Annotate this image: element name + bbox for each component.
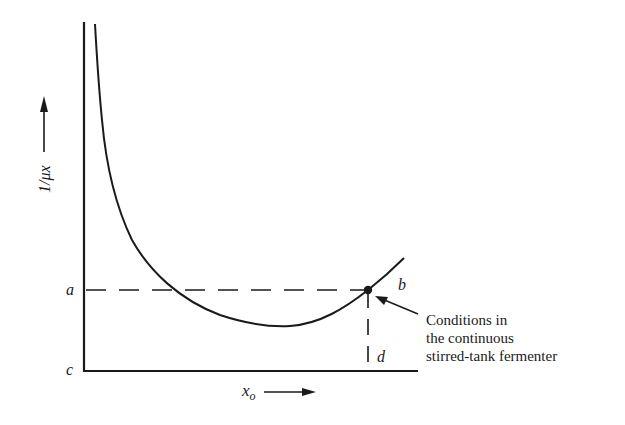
annotation-line-3: stirred-tank fermenter (426, 347, 557, 365)
annotation-line-2: the continuous (426, 329, 557, 347)
operating-point-marker (364, 286, 372, 294)
y-label-arrow-up-icon (40, 96, 48, 112)
label-a: a (66, 281, 74, 298)
annotation-arrowhead-icon (375, 296, 388, 305)
label-c: c (66, 361, 73, 378)
annotation-line-1: Conditions in (426, 311, 557, 329)
annotation-arrow-line (382, 299, 418, 314)
label-d: d (377, 348, 386, 365)
y-axis-label: 1/μx (36, 165, 54, 193)
x-label-arrow-right-icon (302, 388, 316, 396)
label-b: b (398, 276, 406, 293)
x-axis-label: xo (241, 381, 256, 403)
curve (95, 24, 404, 326)
annotation-text: Conditions in the continuous stirred-tan… (426, 311, 557, 365)
